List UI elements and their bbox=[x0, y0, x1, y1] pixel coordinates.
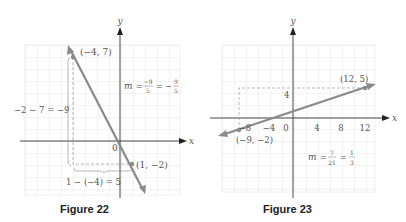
rise-label: −2 − 7 = −9 bbox=[14, 105, 70, 115]
x-tick-label: 12 bbox=[360, 123, 371, 133]
svg-text:−9: −9 bbox=[144, 78, 153, 85]
x-tick-label: 0 bbox=[283, 123, 288, 133]
grid bbox=[222, 45, 375, 192]
svg-text:5: 5 bbox=[146, 87, 150, 94]
x-axis-label: x bbox=[392, 113, 397, 123]
figure-22: y x 0 (−4, 7) (1, −2) −2 − 7 = −9 1 − (−… bbox=[0, 0, 203, 222]
figure-23-plot: y x −8 −4 0 4 8 12 4 (−9, −2) (12, 5) m … bbox=[203, 0, 406, 222]
y-axis-label: y bbox=[289, 16, 296, 26]
svg-text:=: = bbox=[340, 153, 347, 162]
y-tick-label: 4 bbox=[284, 90, 289, 100]
svg-text:9: 9 bbox=[174, 78, 178, 85]
point-2 bbox=[130, 162, 134, 166]
svg-text:7: 7 bbox=[330, 149, 334, 156]
point-1-label: (−9, −2) bbox=[236, 135, 273, 145]
svg-text:m: m bbox=[124, 81, 133, 91]
figure-23-caption: Figure 23 bbox=[263, 203, 312, 215]
origin-label: 0 bbox=[112, 143, 118, 153]
y-axis-label: y bbox=[116, 16, 123, 26]
x-tick-label: −4 bbox=[263, 123, 276, 133]
y-axis-arrow-icon bbox=[117, 27, 123, 35]
svg-text:=: = bbox=[136, 82, 143, 91]
svg-text:3: 3 bbox=[350, 159, 354, 166]
x-axis-arrow-icon bbox=[382, 115, 390, 121]
figure-22-caption: Figure 22 bbox=[60, 203, 109, 215]
point-1-label: (−4, 7) bbox=[80, 47, 112, 57]
svg-text:m: m bbox=[308, 152, 317, 162]
x-axis-arrow-icon bbox=[179, 138, 187, 144]
svg-text:=: = bbox=[320, 153, 327, 162]
point-2-label: (12, 5) bbox=[340, 74, 368, 84]
point-2-label: (1, −2) bbox=[136, 160, 168, 170]
x-axis-label: x bbox=[189, 136, 194, 146]
point-2 bbox=[363, 86, 367, 90]
x-tick-label: 4 bbox=[314, 123, 319, 133]
svg-text:21: 21 bbox=[328, 159, 336, 166]
run-label: 1 − (−4) = 5 bbox=[66, 177, 121, 187]
svg-text:= −: = − bbox=[156, 82, 172, 91]
grid bbox=[25, 45, 180, 195]
svg-text:5: 5 bbox=[174, 87, 178, 94]
x-tick-label: 8 bbox=[338, 123, 343, 133]
svg-text:1: 1 bbox=[350, 149, 354, 156]
y-axis-arrow-icon bbox=[290, 27, 296, 35]
figure-23: y x −8 −4 0 4 8 12 4 (−9, −2) (12, 5) m … bbox=[203, 0, 406, 222]
x-tick-label: −8 bbox=[239, 123, 252, 133]
figure-22-plot: y x 0 (−4, 7) (1, −2) −2 − 7 = −9 1 − (−… bbox=[0, 0, 203, 222]
point-1 bbox=[71, 55, 75, 59]
